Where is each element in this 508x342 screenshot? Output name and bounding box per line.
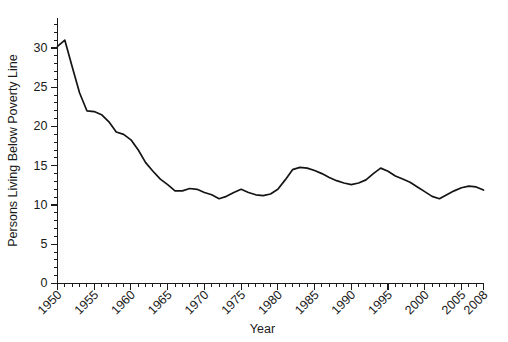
x-tick-label: 1985 bbox=[292, 288, 322, 318]
poverty-line-chart: 0510152025301950195519601965197019751980… bbox=[0, 0, 508, 342]
y-tick-label: 5 bbox=[41, 237, 48, 251]
y-tick-label: 15 bbox=[34, 159, 48, 173]
y-tick-label: 25 bbox=[34, 80, 48, 94]
x-tick-label: 1980 bbox=[255, 288, 285, 318]
x-tick-label: 1995 bbox=[366, 288, 396, 318]
y-tick-label: 20 bbox=[34, 119, 48, 133]
y-tick-label: 10 bbox=[34, 198, 48, 212]
x-tick-label: 1955 bbox=[72, 288, 102, 318]
x-tick-label: 1965 bbox=[145, 288, 175, 318]
x-tick-label: 2005 bbox=[439, 288, 469, 318]
x-tick-label: 1950 bbox=[35, 288, 65, 318]
y-axis-title: Persons Living Below Poverty Line bbox=[6, 54, 20, 247]
x-tick-label: 1960 bbox=[109, 288, 139, 318]
y-tick-label: 0 bbox=[41, 276, 48, 290]
x-axis-title: Year bbox=[250, 322, 275, 336]
y-tick-label: 30 bbox=[34, 41, 48, 55]
x-tick-label: 2008 bbox=[461, 288, 491, 318]
x-tick-label: 1970 bbox=[182, 288, 212, 318]
x-tick-label: 1975 bbox=[219, 288, 249, 318]
x-tick-label: 1990 bbox=[329, 288, 359, 318]
chart-canvas: 0510152025301950195519601965197019751980… bbox=[0, 0, 508, 342]
x-tick-label: 2000 bbox=[402, 288, 432, 318]
data-series-line bbox=[58, 40, 484, 199]
